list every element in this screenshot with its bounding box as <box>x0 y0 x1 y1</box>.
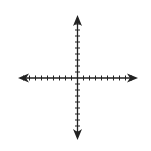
coordinate-plane-diagram <box>0 0 151 151</box>
axes-graphic <box>0 0 151 151</box>
